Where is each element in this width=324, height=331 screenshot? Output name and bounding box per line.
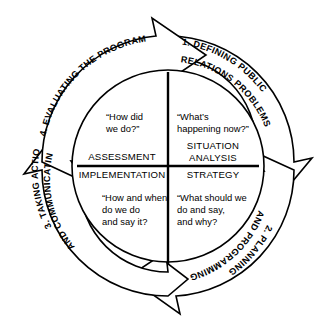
assessment-label: ASSESSMENT xyxy=(88,151,156,162)
implementation-question-line2: do we do xyxy=(102,204,140,215)
pr-process-diagram: 1. DEFINING PUBLIC RELATIONS PROBLEMS 2.… xyxy=(0,0,324,331)
implementation-label: IMPLEMENTATION xyxy=(79,169,166,180)
implementation-question-line3: and say it? xyxy=(102,216,147,227)
assessment-question-line2: we do?” xyxy=(105,123,139,134)
situation-analysis-label-line2: ANALYSIS xyxy=(189,152,237,163)
situation-analysis-label-line1: SITUATION xyxy=(187,140,239,151)
pr-cycle-graphic: 1. DEFINING PUBLIC RELATIONS PROBLEMS 2.… xyxy=(0,0,324,331)
strategy-question-line2: do and say, xyxy=(177,204,225,215)
situation-analysis-question-line1: “What’s xyxy=(177,111,209,122)
implementation-question-line1: “How and when xyxy=(102,192,167,203)
situation-analysis-question-line2: happening now?” xyxy=(177,123,249,134)
strategy-label: STRATEGY xyxy=(187,169,240,180)
strategy-question-line1: “What should we xyxy=(177,192,247,203)
strategy-question-line3: and why? xyxy=(177,216,217,227)
assessment-question-line1: “How did xyxy=(106,111,143,122)
